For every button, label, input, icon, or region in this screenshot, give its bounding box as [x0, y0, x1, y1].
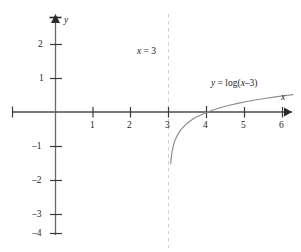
asymptote-annotation-value: = 3: [141, 46, 156, 56]
x-tick-label-5: 5: [241, 121, 246, 131]
x-tick-label-6: 6: [279, 121, 284, 131]
y-tick-label-neg2: –2: [32, 176, 42, 186]
y-axis-arrowhead-icon: [51, 14, 60, 23]
asymptote-annotation: x = 3: [137, 47, 156, 57]
x-tick-label-2: 2: [127, 121, 132, 131]
x-axis-label: x: [281, 93, 285, 103]
x-tick-label-1: 1: [90, 121, 95, 131]
log-function-graph-figure: y x 2 1 –1 –2 –3 –4 1 2 3 4 5 6 x = 3 y …: [0, 0, 301, 252]
graph-canvas: [0, 0, 301, 252]
y-tick-label-1: 1: [39, 74, 44, 84]
curve-equation-tail: –3): [245, 78, 258, 88]
y-tick-label-neg1: –1: [32, 142, 42, 152]
x-tick-label-4: 4: [203, 121, 208, 131]
curve-equation-operator: = log(: [215, 78, 240, 88]
curve-equation-annotation: y = log(x–3): [211, 79, 258, 89]
log-curve: [171, 95, 293, 164]
x-axis-arrowhead-icon: [284, 108, 292, 117]
y-axis-label: y: [64, 16, 68, 26]
y-tick-label-neg4: –4: [32, 229, 42, 239]
y-tick-label-2: 2: [38, 40, 43, 50]
y-tick-label-neg3: –3: [32, 210, 42, 220]
x-tick-label-3: 3: [165, 121, 170, 131]
